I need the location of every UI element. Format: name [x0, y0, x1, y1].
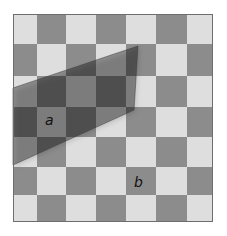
- board-square: [156, 76, 187, 107]
- board-square: [156, 167, 187, 195]
- board-square: [66, 195, 96, 222]
- board-square: [13, 167, 37, 195]
- board-square: [96, 14, 126, 44]
- board-square: [13, 14, 37, 44]
- board-square: [126, 137, 156, 167]
- board-square: [126, 14, 156, 44]
- board-square: [187, 137, 213, 167]
- checkerboard: [0, 0, 227, 236]
- board-square: [13, 195, 37, 222]
- checker-shadow-figure: a b: [0, 0, 227, 236]
- board-square: [187, 107, 213, 137]
- square-label-b: b: [134, 175, 143, 189]
- board-square: [66, 14, 96, 44]
- board-square: [187, 14, 213, 44]
- board-square: [187, 44, 213, 76]
- board-square: [96, 195, 126, 222]
- board-square: [126, 195, 156, 222]
- board-square: [66, 167, 96, 195]
- board-square: [37, 167, 66, 195]
- board-square: [96, 167, 126, 195]
- square-label-a: a: [45, 113, 54, 127]
- board-square: [156, 107, 187, 137]
- board-square: [187, 167, 213, 195]
- board-square: [96, 137, 126, 167]
- board-square: [156, 137, 187, 167]
- board-square: [37, 195, 66, 222]
- board-square: [37, 14, 66, 44]
- board-square: [156, 195, 187, 222]
- board-square: [156, 44, 187, 76]
- board-square: [187, 76, 213, 107]
- board-square: [13, 44, 37, 76]
- board-square: [156, 14, 187, 44]
- board-square: [187, 195, 213, 222]
